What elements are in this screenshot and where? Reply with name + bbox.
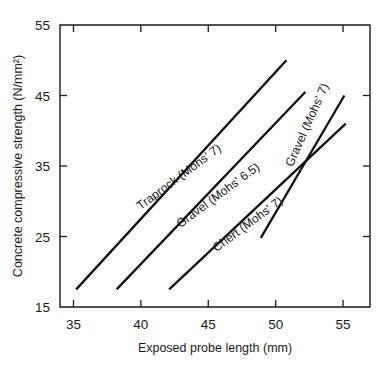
y-tick-label: 45 bbox=[35, 89, 50, 104]
x-tick-label: 45 bbox=[201, 317, 216, 332]
y-tick-label: 25 bbox=[35, 230, 50, 245]
x-tick-label: 50 bbox=[268, 317, 283, 332]
x-axis-ticks: 3540455055 bbox=[66, 25, 351, 332]
y-axis-title: Concrete compressive strength (N/mm²) bbox=[11, 55, 25, 277]
y-tick-label: 15 bbox=[35, 300, 50, 315]
chart-canvas: 3540455055 1525354555 Traprock (Mohs' 7)… bbox=[0, 0, 389, 370]
x-tick-label: 35 bbox=[66, 317, 81, 332]
series-label: Chert (Mohs' 7) bbox=[210, 194, 286, 255]
x-tick-label: 40 bbox=[133, 317, 148, 332]
series-label: Gravel (Mohs' 7) bbox=[282, 81, 331, 169]
y-tick-label: 55 bbox=[35, 18, 50, 33]
axis-frame bbox=[60, 25, 370, 307]
y-tick-label: 35 bbox=[35, 159, 50, 174]
data-series-group bbox=[76, 60, 346, 289]
x-tick-label: 55 bbox=[336, 317, 351, 332]
plot-axes bbox=[60, 25, 370, 307]
chart-figure: 3540455055 1525354555 Traprock (Mohs' 7)… bbox=[0, 0, 389, 370]
x-axis-title: Exposed probe length (mm) bbox=[138, 341, 292, 355]
